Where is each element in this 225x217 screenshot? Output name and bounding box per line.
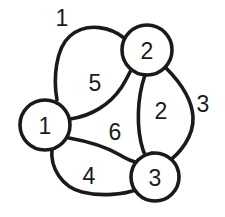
edge-3-label: 3 [197, 91, 210, 117]
edge-4-label: 4 [83, 163, 96, 189]
edge-2-label: 2 [155, 98, 168, 124]
node-1-label: 1 [39, 113, 52, 139]
node-3-label: 3 [149, 165, 162, 191]
graph-canvas: 1 2 3 1 5 6 4 2 3 [0, 0, 225, 217]
graph-figure: 1 2 3 1 5 6 4 2 3 [0, 0, 225, 217]
edge-5-label: 5 [89, 70, 102, 96]
edge-6-label: 6 [109, 119, 122, 145]
edge-6-path[interactable] [69, 138, 139, 163]
edge-3-path[interactable] [166, 68, 193, 163]
edge-2-path[interactable] [138, 75, 152, 157]
edge-1-label: 1 [56, 5, 69, 31]
node-2-label: 2 [141, 38, 154, 64]
